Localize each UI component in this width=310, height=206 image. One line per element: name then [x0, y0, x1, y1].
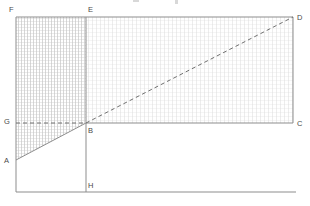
figure-container: F E D G B C A H [0, 0, 310, 206]
vertex-label-G: G [4, 117, 10, 126]
vertex-label-H: H [88, 181, 93, 190]
vertex-label-D: D [297, 13, 303, 22]
vertex-label-A: A [4, 156, 9, 165]
vertex-label-C: C [297, 119, 303, 128]
geometric-diagram: F E D G B C A H [0, 0, 310, 206]
vertex-label-B: B [88, 126, 93, 135]
top-faint-marks [133, 0, 178, 4]
region-dense-hatched [16, 17, 86, 160]
vertex-label-E: E [88, 5, 93, 14]
vertex-label-F: F [9, 5, 14, 14]
